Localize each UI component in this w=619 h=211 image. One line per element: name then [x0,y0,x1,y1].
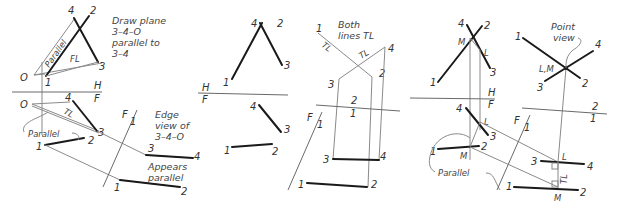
label-ref-1: 1 [590,113,596,124]
label-m: M [554,193,562,203]
descriptive-geometry-figure: 4 2 3 1 O FL Parallel Draw plane 3–4–O p… [0,0,619,211]
label-3: 3 [490,67,496,78]
note-appears-parallel: parallel [147,172,184,183]
projection-line [558,68,566,162]
projection-line [333,79,339,159]
note-draw-plane: Draw plane [112,15,166,26]
panel-2: 4 2 3 1 H F 4 3 1 2 [198,18,290,157]
label-h: H [488,87,496,98]
note-edge-view: 3–4–O [155,131,185,142]
note-edge-view: Edge [155,109,179,120]
label-3: 3 [537,82,543,93]
projection-line [368,77,372,187]
projection-line [470,147,558,187]
label-f: F [122,109,128,120]
note-both-lines: Both [338,19,360,30]
label-4: 4 [68,5,74,16]
line-1-2-front [232,144,272,147]
label-2: 2 [582,78,588,89]
projection-line [97,131,146,155]
label-1-ref: 1 [317,119,323,130]
line-1-2-top [232,23,262,79]
label-ref-1: 1 [350,108,356,119]
construction-line [34,74,45,75]
note-point-view: view [553,32,575,43]
projection-line [480,122,558,162]
label-f: F [307,112,313,123]
label-lm: L,M [539,64,554,74]
label-3: 3 [323,154,329,165]
note-draw-plane: 3–4 [112,48,129,59]
label-2: 2 [379,68,385,79]
label-3: 3 [490,131,496,142]
panel-4: 4 2 M L 3 1 H F 4 L 3 2 1 M Parallel F 1 [410,18,607,203]
label-f: F [488,99,494,110]
label-2: 2 [88,135,94,146]
label-1-ref: 1 [524,122,530,133]
panel-3: 1 4 3 2 TL TL Both lines TL 2 1 F 1 3 4 … [288,19,400,190]
label-3: 3 [284,124,290,135]
label-1: 1 [316,23,322,34]
line-4-3-front [259,105,281,132]
label-3: 3 [328,79,334,90]
line-3-4 [333,159,379,160]
label-1: 1 [223,77,229,88]
label-4: 4 [388,43,394,54]
label-1: 1 [224,145,230,156]
label-f: F [514,115,520,126]
tl-note: TL [320,40,334,54]
label-2: 2 [580,187,586,198]
note-point-view: Point [551,21,576,32]
label-o: O [20,99,28,110]
label-1-ref: 1 [130,116,136,127]
label-4: 4 [587,161,593,172]
label-2: 2 [181,186,187,197]
label-2: 2 [371,179,377,190]
line-4-3-front [73,101,97,131]
line-4-3-top [260,23,282,65]
label-2: 2 [484,20,490,31]
label-3: 3 [99,61,105,72]
label-3: 3 [284,60,290,71]
label-4: 4 [380,151,386,162]
line-m-l [470,122,480,147]
label-m: M [458,37,466,47]
label-1: 1 [515,31,521,42]
label-ref-2: 2 [351,95,357,106]
tl-note: TL [559,174,569,184]
label-1: 1 [298,179,304,190]
label-4: 4 [250,101,256,112]
parallel-note: Parallel [28,129,60,139]
label-h: H [202,82,210,93]
label-1: 1 [45,77,51,88]
note-appears-parallel: Appears [147,161,187,172]
label-4: 4 [595,39,601,50]
label-4: 4 [251,18,257,29]
label-1: 1 [36,141,42,152]
projection-line [379,47,385,160]
label-m: M [460,151,468,161]
parallel-note: Parallel [438,168,470,178]
label-2: 2 [277,18,283,29]
label-f: F [94,93,100,104]
label-3: 3 [531,156,537,167]
reference-line-2-1 [316,105,400,111]
tl-note: TL [62,106,76,120]
line-1-2 [307,183,367,187]
hf-reference-line [198,93,288,95]
label-f: F [202,94,208,105]
line-3-4-aux [146,155,193,158]
label-2: 2 [90,5,96,16]
label-1: 1 [430,77,436,88]
label-h: H [94,80,102,91]
line-1-2-top [46,16,89,76]
right-angle-marker [552,163,558,169]
parallel-note: Parallel [42,37,69,69]
label-1: 1 [114,182,120,193]
panel-1: 4 2 3 1 O FL Parallel Draw plane 3–4–O p… [12,5,200,197]
label-2: 2 [272,146,278,157]
label-3: 3 [148,143,154,154]
note-edge-view: view of [155,120,191,131]
label-2: 2 [481,141,487,152]
label-4: 4 [458,18,464,29]
